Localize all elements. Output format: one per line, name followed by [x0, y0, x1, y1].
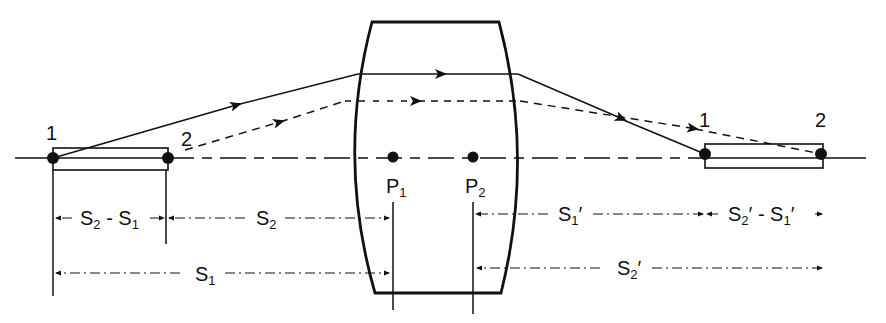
image-rod	[705, 144, 823, 168]
dim-label-s1-prime: S1′	[558, 203, 583, 228]
dim-label-s2: S2	[256, 207, 277, 232]
image-point-2	[815, 148, 827, 160]
object-point-2-label: 2	[181, 128, 192, 150]
object-rod	[53, 148, 168, 170]
dimension-lines	[56, 214, 822, 273]
principal-point-p1	[388, 152, 399, 163]
object-point-2	[162, 152, 174, 164]
p2-label: P2	[465, 175, 486, 200]
image-point-1-label: 1	[699, 109, 710, 131]
image-point-2-label: 2	[815, 109, 826, 131]
image-point-1	[699, 148, 711, 160]
object-point-1	[47, 152, 59, 164]
object-point-1-label: 1	[46, 122, 57, 144]
dim-label-s2-prime: S2′	[617, 257, 642, 282]
thick-lens-diagram: 1 2 1 2 P1 P2 S2 - S1 S2 S1 S1′ S2′ -	[0, 0, 886, 323]
ray-from-point-1	[53, 74, 705, 158]
p1-label: P1	[386, 175, 407, 200]
dim-label-s1: S1	[195, 263, 216, 288]
dim-label-s2-minus-s1: S2 - S1	[80, 207, 139, 232]
dim-label-s2p-minus-s1p: S2′ - S1′	[728, 203, 795, 228]
ray-from-point-2	[185, 101, 822, 154]
principal-point-p2	[468, 152, 479, 163]
